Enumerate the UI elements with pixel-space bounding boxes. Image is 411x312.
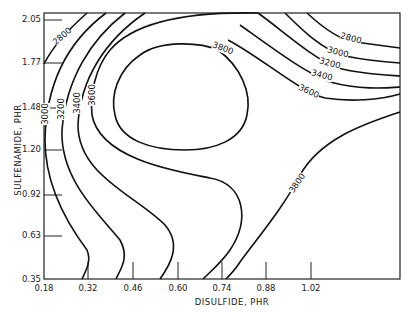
svg-text:0.18: 0.18	[35, 283, 54, 293]
y-axis-label: SULFENAMIDE, PHR	[13, 104, 23, 195]
svg-text:0.63: 0.63	[22, 230, 41, 240]
svg-text:3000: 3000	[40, 103, 50, 125]
contour-3600-left	[92, 13, 258, 279]
svg-text:1.48: 1.48	[22, 102, 41, 112]
svg-text:0.46: 0.46	[124, 283, 143, 293]
svg-text:2.05: 2.05	[22, 14, 41, 24]
svg-text:3400: 3400	[310, 67, 333, 82]
svg-text:0.92: 0.92	[22, 189, 41, 199]
svg-text:0.32: 0.32	[79, 283, 98, 293]
svg-text:0.60: 0.60	[169, 283, 188, 293]
svg-text:1.02: 1.02	[302, 283, 321, 293]
x-axis-label: DISULFIDE, PHR	[195, 297, 270, 307]
svg-text:3400: 3400	[72, 92, 82, 114]
y-tick-labels: 2.05 1.77 1.48 1.20 0.92 0.63 0.35	[22, 14, 41, 284]
svg-text:3200: 3200	[318, 55, 341, 70]
contour-3200-left	[62, 13, 125, 279]
svg-text:1.20: 1.20	[22, 144, 41, 154]
contour-3400-left	[78, 13, 174, 279]
contour-3800-ellipse	[114, 44, 249, 150]
contour-chart: 2.05 1.77 1.48 1.20 0.92 0.63 0.35 0.18 …	[0, 0, 411, 312]
svg-text:2800: 2800	[339, 30, 362, 45]
svg-text:0.74: 0.74	[213, 283, 232, 293]
svg-text:1.77: 1.77	[22, 57, 41, 67]
contour-3800-lower-right	[226, 112, 400, 279]
contour-3000-left	[45, 13, 106, 279]
svg-text:3600: 3600	[87, 84, 97, 106]
svg-text:3200: 3200	[56, 98, 66, 120]
svg-text:0.88: 0.88	[257, 283, 276, 293]
x-axis-ticks	[88, 262, 311, 279]
x-tick-labels: 0.18 0.32 0.46 0.60 0.74 0.88 1.02	[35, 283, 321, 293]
svg-text:3600: 3600	[297, 82, 321, 100]
